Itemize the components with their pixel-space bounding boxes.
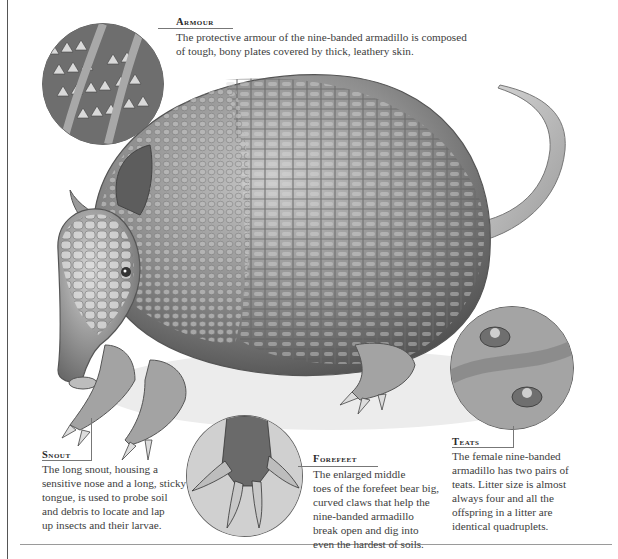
- armour-heading: Armour: [176, 16, 214, 27]
- teats-inset: [450, 306, 574, 430]
- forefeet-text-line: nine-banded armadillo: [313, 509, 463, 523]
- teats-text-line: armadillo has two pairs of: [452, 463, 602, 477]
- teats-detail-icon: [451, 307, 573, 429]
- armour-text: The protective armour of the nine-banded…: [176, 30, 536, 58]
- forefeet-text-line: even the hardest of soils.: [313, 537, 463, 551]
- snout-text-line: up insects and their larvae.: [42, 518, 212, 532]
- forefeet-text-line: curved claws that help the: [313, 495, 463, 509]
- teats-leader-base: [452, 447, 514, 448]
- teats-text-line: teats. Litter size is almost: [452, 477, 602, 491]
- teats-text-line: offspring in a litter are: [452, 505, 602, 519]
- armour-leader-line: [158, 28, 233, 29]
- armadillo-anatomy-page: Armour The protective armour of the nine…: [0, 0, 618, 559]
- teats-text-line: identical quadruplets.: [452, 519, 602, 533]
- teats-text-line: always four and all the: [452, 491, 602, 505]
- teats-leader-line: [513, 426, 514, 447]
- forefeet-inset: [186, 415, 303, 537]
- snout-heading: Snout: [42, 449, 71, 460]
- forefeet-text-line: toes of the forefeet bear big,: [313, 481, 463, 495]
- armour-text-line: The protective armour of the nine-banded…: [176, 30, 536, 44]
- teats-text: The female nine-banded armadillo has two…: [452, 449, 602, 533]
- armour-text-line: of tough, bony plates covered by thick, …: [176, 44, 536, 58]
- armour-plates-icon: [43, 24, 163, 144]
- teats-heading: Teats: [452, 436, 479, 447]
- armour-inset: [42, 23, 164, 145]
- forefeet-text-line: break open and dig into: [313, 523, 463, 537]
- snout-leader-line: [91, 418, 92, 460]
- forefeet-text: The enlarged middle toes of the forefeet…: [313, 467, 463, 551]
- snout-leader-base: [42, 460, 92, 461]
- forefeet-text-line: The enlarged middle: [313, 467, 463, 481]
- teats-text-line: The female nine-banded: [452, 449, 602, 463]
- forefeet-heading: Forefeet: [313, 453, 357, 464]
- snout-text-line: tongue, is used to probe soil: [42, 490, 212, 504]
- snout-text-line: and debris to locate and lap: [42, 504, 212, 518]
- claw-icon: [187, 416, 302, 536]
